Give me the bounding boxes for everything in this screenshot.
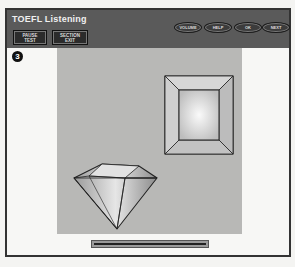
header-bar: TOEFL Listening PAUSE TEST SECTION EXIT … xyxy=(7,10,289,48)
pause-label-2: TEST xyxy=(14,38,46,43)
volume-button[interactable]: VOLUME xyxy=(174,22,202,33)
figures-illustration xyxy=(57,48,242,234)
next-button[interactable]: NEXT xyxy=(262,22,290,33)
progress-fill xyxy=(94,243,206,245)
help-button[interactable]: HELP xyxy=(204,22,232,33)
section-label-2: EXIT xyxy=(53,38,87,43)
ok-button[interactable]: OK xyxy=(234,22,262,33)
square-frustum-figure xyxy=(165,76,233,154)
question-number-badge: 3 xyxy=(12,51,23,62)
test-window: TOEFL Listening PAUSE TEST SECTION EXIT … xyxy=(5,8,291,257)
image-panel xyxy=(57,48,242,234)
diamond-figure xyxy=(74,164,157,229)
section-exit-button[interactable]: SECTION EXIT xyxy=(52,30,88,45)
audio-progress-bar xyxy=(91,240,209,248)
pause-test-button[interactable]: PAUSE TEST xyxy=(13,30,47,45)
app-title: TOEFL Listening xyxy=(12,14,87,24)
